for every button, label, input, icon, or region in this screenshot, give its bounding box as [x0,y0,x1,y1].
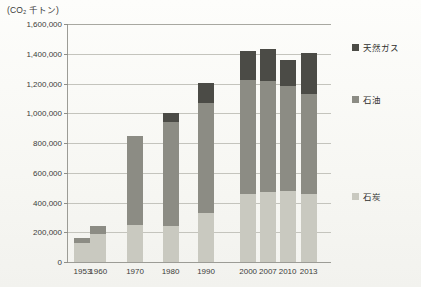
bar-segment-石炭-1970 [127,225,143,262]
bar-segment-天然ガス-2007 [260,49,276,81]
bar-1970 [127,136,143,262]
caption-strip [0,279,421,287]
y-axis-tick-label: 800,000 [33,139,62,148]
bar-segment-石炭-1990 [198,213,214,262]
y-axis-tick-mark [64,232,68,233]
legend-item-1: 石油 [352,93,381,105]
bar-2000 [240,51,256,262]
y-axis-tick-label: 1,400,000 [26,49,62,58]
bar-segment-石油-1960 [90,226,106,234]
bar-segment-天然ガス-1980 [163,113,179,122]
bar-segment-石炭-2007 [260,192,276,262]
legend-label: 天然ガス [363,41,399,53]
bar-segment-石炭-2013 [301,194,317,262]
bar-segment-天然ガス-2010 [280,60,296,87]
bar-segment-石油-1970 [127,136,143,225]
y-axis-tick-mark [64,143,68,144]
y-axis-tick-label: 1,600,000 [26,20,62,29]
y-axis-tick-mark [64,203,68,204]
legend-swatch-icon [352,96,359,103]
bar-segment-石炭-1980 [163,226,179,262]
x-axis-tick-label-2013: 2013 [300,267,318,276]
bar-1980 [163,113,179,262]
legend-label: 石炭 [363,190,381,202]
legend-swatch-icon [352,193,359,200]
y-axis-tick-mark [64,24,68,25]
bar-segment-石油-2007 [260,81,276,193]
bar-segment-石油-1980 [163,122,179,226]
x-axis-tick-label-2000: 2000 [239,267,257,276]
bar-2010 [280,60,296,262]
x-axis-tick-label-1970: 1970 [126,267,144,276]
y-axis-tick-label: 400,000 [33,198,62,207]
y-axis-tick-label: 600,000 [33,168,62,177]
x-axis-tick-label-2007: 2007 [259,267,277,276]
y-axis-tick-mark [64,113,68,114]
bar-segment-石炭-2000 [240,194,256,262]
x-axis-tick-label-2010: 2010 [279,267,297,276]
x-axis-tick-label-1980: 1980 [162,267,180,276]
bar-segment-石炭-1953 [74,243,90,262]
bar-segment-石油-2000 [240,80,256,194]
bar-segment-石油-1990 [198,103,214,213]
gridline [68,54,331,55]
bar-segment-天然ガス-2000 [240,51,256,80]
y-axis-tick-label: 200,000 [33,228,62,237]
x-axis-tick-label-1990: 1990 [197,267,215,276]
y-axis-unit-label: (CO₂ 千トン) [7,3,59,15]
y-axis-tick-label: 1,200,000 [26,79,62,88]
y-axis-tick-mark [64,173,68,174]
legend-swatch-icon [352,44,359,51]
y-axis-tick-mark [64,84,68,85]
bar-segment-石油-2010 [280,86,296,191]
legend-label: 石油 [363,93,381,105]
legend-item-2: 石炭 [352,190,381,202]
chart-page: (CO₂ 千トン) 0200,000400,000600,000800,0001… [0,0,421,287]
legend-item-0: 天然ガス [352,41,399,53]
bar-segment-石油-2013 [301,94,317,194]
bar-1953 [74,238,90,262]
plot-area: 0200,000400,000600,000800,0001,000,0001,… [67,24,331,263]
bar-2007 [260,49,276,262]
bar-2013 [301,53,317,262]
y-axis-tick-mark [64,262,68,263]
y-axis-tick-label: 1,000,000 [26,109,62,118]
y-axis-tick-label: 0 [58,258,62,267]
bar-segment-天然ガス-2013 [301,53,317,94]
y-axis-tick-mark [64,54,68,55]
bar-segment-天然ガス-1990 [198,83,214,103]
bar-segment-石炭-2010 [280,191,296,262]
bar-segment-石炭-1960 [90,234,106,262]
x-axis-tick-label-1960: 1960 [89,267,107,276]
bar-1990 [198,83,214,262]
gridline [68,24,331,25]
bar-1960 [90,226,106,262]
